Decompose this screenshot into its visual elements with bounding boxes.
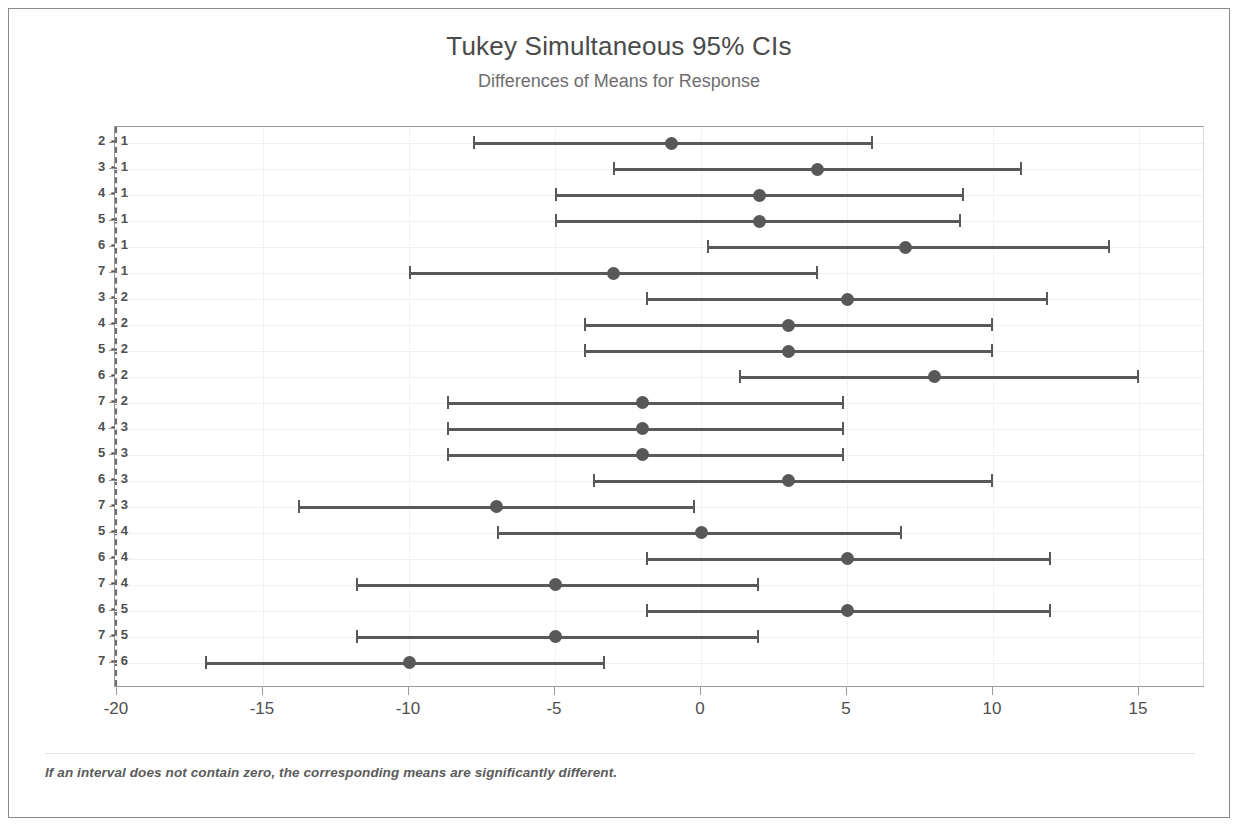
ci-lower-cap bbox=[613, 162, 615, 175]
ci-upper-cap bbox=[1046, 292, 1048, 305]
ci-lower-cap bbox=[593, 474, 595, 487]
chart-subtitle: Differences of Means for Response bbox=[9, 71, 1229, 92]
ci-mean-point bbox=[753, 189, 766, 202]
ci-mean-point bbox=[490, 500, 503, 513]
x-axis-tick bbox=[554, 686, 555, 695]
y-axis-tick-label: 3 - 1 bbox=[39, 159, 129, 174]
ci-upper-cap bbox=[816, 266, 818, 279]
y-axis-tick-label: 4 - 1 bbox=[39, 185, 129, 200]
ci-lower-cap bbox=[447, 448, 449, 461]
ci-mean-point bbox=[665, 137, 678, 150]
ci-upper-cap bbox=[842, 448, 844, 461]
ci-lower-cap bbox=[646, 292, 648, 305]
ci-upper-cap bbox=[962, 188, 964, 201]
y-axis-tick-label: 3 - 2 bbox=[39, 289, 129, 304]
ci-upper-cap bbox=[1049, 552, 1051, 565]
x-axis-tick-label: 5 bbox=[816, 699, 876, 719]
x-axis-tick bbox=[846, 686, 847, 695]
y-axis-tick-label: 6 - 2 bbox=[39, 367, 129, 382]
footnote-divider bbox=[45, 753, 1195, 754]
x-axis-tick-label: -5 bbox=[524, 699, 584, 719]
x-axis-tick bbox=[408, 686, 409, 695]
ci-mean-point bbox=[636, 448, 649, 461]
ci-mean-point bbox=[928, 370, 941, 383]
x-axis-tick-label: 0 bbox=[670, 699, 730, 719]
ci-upper-cap bbox=[1020, 162, 1022, 175]
ci-mean-point bbox=[403, 656, 416, 669]
ci-lower-cap bbox=[584, 344, 586, 357]
gridline-vertical bbox=[847, 127, 848, 686]
gridline-vertical bbox=[555, 127, 556, 686]
x-axis-tick-label: 10 bbox=[962, 699, 1022, 719]
ci-mean-point bbox=[811, 163, 824, 176]
x-axis-tick bbox=[700, 686, 701, 695]
ci-upper-cap bbox=[842, 396, 844, 409]
chart-title: Tukey Simultaneous 95% CIs bbox=[9, 31, 1229, 62]
y-axis-tick-label: 7 - 6 bbox=[39, 653, 129, 668]
ci-lower-cap bbox=[447, 396, 449, 409]
ci-mean-point bbox=[782, 474, 795, 487]
y-axis-tick-label: 7 - 1 bbox=[39, 263, 129, 278]
ci-lower-cap bbox=[646, 552, 648, 565]
y-axis-tick-label: 6 - 3 bbox=[39, 471, 129, 486]
ci-upper-cap bbox=[757, 630, 759, 643]
ci-lower-cap bbox=[584, 318, 586, 331]
chart-frame: Tukey Simultaneous 95% CIs Differences o… bbox=[8, 8, 1230, 818]
ci-upper-cap bbox=[693, 500, 695, 513]
ci-lower-cap bbox=[707, 240, 709, 253]
y-axis-tick-label: 7 - 4 bbox=[39, 575, 129, 590]
ci-lower-cap bbox=[356, 578, 358, 591]
gridline-vertical bbox=[1139, 127, 1140, 686]
y-axis-tick-label: 4 - 3 bbox=[39, 419, 129, 434]
gridline-vertical bbox=[701, 127, 702, 686]
x-axis-tick bbox=[116, 686, 117, 695]
ci-lower-cap bbox=[555, 214, 557, 227]
y-axis-tick-label: 5 - 2 bbox=[39, 341, 129, 356]
ci-upper-cap bbox=[1137, 370, 1139, 383]
ci-mean-point bbox=[636, 396, 649, 409]
y-axis-tick-label: 7 - 3 bbox=[39, 497, 129, 512]
ci-mean-point bbox=[549, 578, 562, 591]
ci-lower-cap bbox=[497, 526, 499, 539]
plot-area bbox=[114, 126, 1204, 686]
x-axis-tick-label: -20 bbox=[86, 699, 146, 719]
x-axis-line bbox=[114, 686, 1204, 687]
ci-mean-point bbox=[607, 267, 620, 280]
x-axis-tick bbox=[262, 686, 263, 695]
ci-upper-cap bbox=[959, 214, 961, 227]
ci-mean-point bbox=[782, 345, 795, 358]
x-axis-tick-label: 15 bbox=[1108, 699, 1168, 719]
ci-lower-cap bbox=[447, 422, 449, 435]
y-axis-tick-label: 5 - 4 bbox=[39, 523, 129, 538]
gridline-vertical bbox=[263, 127, 264, 686]
ci-upper-cap bbox=[842, 422, 844, 435]
ci-upper-cap bbox=[900, 526, 902, 539]
ci-lower-cap bbox=[409, 266, 411, 279]
y-axis-tick-label: 6 - 4 bbox=[39, 549, 129, 564]
ci-upper-cap bbox=[871, 136, 873, 149]
ci-mean-point bbox=[841, 604, 854, 617]
ci-upper-cap bbox=[991, 344, 993, 357]
ci-upper-cap bbox=[603, 656, 605, 669]
y-axis-tick-label: 5 - 3 bbox=[39, 445, 129, 460]
ci-mean-point bbox=[695, 526, 708, 539]
ci-mean-point bbox=[841, 552, 854, 565]
chart-footnote: If an interval does not contain zero, th… bbox=[45, 765, 617, 780]
y-axis-tick-label: 5 - 1 bbox=[39, 211, 129, 226]
ci-mean-point bbox=[636, 422, 649, 435]
ci-lower-cap bbox=[739, 370, 741, 383]
y-axis-tick-label: 6 - 5 bbox=[39, 601, 129, 616]
ci-mean-point bbox=[753, 215, 766, 228]
ci-mean-point bbox=[899, 241, 912, 254]
ci-upper-cap bbox=[991, 474, 993, 487]
ci-lower-cap bbox=[298, 500, 300, 513]
x-axis-tick-label: -15 bbox=[232, 699, 292, 719]
y-axis-tick-label: 4 - 2 bbox=[39, 315, 129, 330]
ci-upper-cap bbox=[757, 578, 759, 591]
ci-mean-point bbox=[549, 630, 562, 643]
y-axis-tick-label: 2 - 1 bbox=[39, 133, 129, 148]
ci-upper-cap bbox=[991, 318, 993, 331]
ci-lower-cap bbox=[356, 630, 358, 643]
x-axis-tick-label: -10 bbox=[378, 699, 438, 719]
ci-mean-point bbox=[782, 319, 795, 332]
